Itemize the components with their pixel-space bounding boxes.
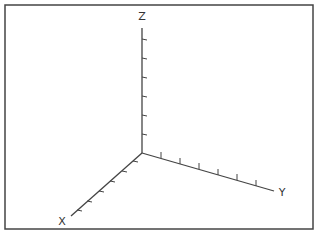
diagram-canvas: ZYX [0,0,316,234]
axis-label-x: X [58,215,66,228]
axis-label-z: Z [138,10,146,23]
axis-label-y: Y [278,186,286,199]
3d-axes-diagram: ZYX [0,0,316,234]
frame-border [5,5,313,229]
